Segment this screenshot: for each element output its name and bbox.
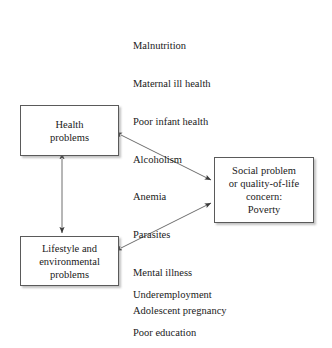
list-item: Poor infant health <box>133 116 227 129</box>
list-item: Anemia <box>133 191 227 204</box>
list-lifestyle-factors: Underemployment Poor education Social di… <box>133 264 220 348</box>
node-lifestyle-environmental-problems[interactable]: Lifestyle and environmental problems <box>20 236 119 286</box>
node-lifestyle-environmental-problems-label: Lifestyle and environmental problems <box>35 242 104 281</box>
list-item: Poor education <box>133 327 220 340</box>
list-item: Maternal ill health <box>133 78 227 91</box>
list-item: Parasites <box>133 229 227 242</box>
node-health-problems-label: Health problems <box>46 118 93 144</box>
node-health-problems[interactable]: Health problems <box>20 105 119 156</box>
list-item: Underemployment <box>133 289 220 302</box>
list-item: Malnutrition <box>133 40 227 53</box>
list-item: Alcoholism <box>133 154 227 167</box>
node-social-problem-poverty-label: Social problem or quality-of-life concer… <box>225 164 303 216</box>
diagram-canvas: Health problems Lifestyle and environmen… <box>0 0 332 348</box>
node-social-problem-poverty[interactable]: Social problem or quality-of-life concer… <box>214 157 314 223</box>
